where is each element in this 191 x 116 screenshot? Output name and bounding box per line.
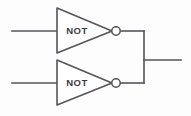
- not-gate-bottom[interactable]: NOT: [57, 60, 120, 105]
- not-gate-bottom-label: NOT: [66, 77, 87, 88]
- not-gate-top-label: NOT: [66, 25, 87, 36]
- inversion-bubble-bottom: [112, 79, 120, 87]
- inversion-bubble-top: [112, 27, 120, 35]
- logic-circuit-svg: NOT NOT: [0, 0, 191, 116]
- logic-diagram-canvas: NOT NOT: [0, 0, 191, 116]
- not-gate-top[interactable]: NOT: [57, 8, 120, 53]
